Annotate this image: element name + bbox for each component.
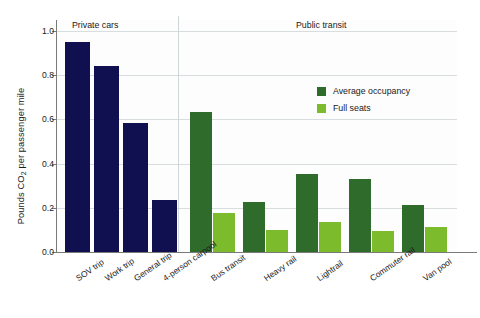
x-axis-label-bus-transit: Bus transit [209,252,247,283]
bar-commuter-rail-average-occupancy [349,179,371,252]
legend-item-average-occupancy: Average occupancy [317,84,410,98]
plot-area: 0.00.20.40.60.81.0 SOV tripWork tripGene… [57,20,457,252]
y-axis-tick-label: 0.4 [28,159,54,169]
bar-van-pool-full-seats [425,227,447,252]
y-axis-line [56,20,57,253]
chart-container: Pounds CO2 per passenger mile 0.00.20.40… [0,0,480,318]
bar-bus-transit-average-occupancy [190,112,212,252]
y-axis-tick-label: 0.8 [28,70,54,80]
y-axis-tick-label: 0.0 [28,247,54,257]
section-heading-public-transit: Public transit [296,20,346,30]
x-axis-label-sov-trip: SOV trip [74,257,106,283]
bar-heavy-rail-average-occupancy [243,202,265,252]
y-axis-tick-label: 0.6 [28,114,54,124]
bar-sov-trip [65,42,90,252]
gridline [57,31,457,32]
y-axis-tick-label: 1.0 [28,26,54,36]
x-axis-label-work-trip: Work trip [103,256,136,283]
bar-heavy-rail-full-seats [266,230,288,252]
bar-commuter-rail-full-seats [372,231,394,252]
group-divider [178,16,179,252]
bar-lightrail-full-seats [319,222,341,252]
y-axis-tick-label: 0.2 [28,203,54,213]
bar-van-pool-average-occupancy [402,205,424,253]
bar-work-trip [94,66,119,252]
section-heading-private-cars: Private cars [72,20,118,30]
x-axis-label-van-pool: Van pool [421,256,453,283]
bar-general-trip [123,123,148,252]
y-axis-title-suffix: per passenger mile [16,88,26,172]
legend-swatch-average-occupancy [317,87,326,96]
bar-4-person-carpool [152,200,177,252]
chart-legend: Average occupancy Full seats [317,84,410,118]
legend-label-average-occupancy: Average occupancy [333,86,410,96]
y-axis-title-subscript: 2 [20,171,27,175]
bar-lightrail-average-occupancy [296,174,318,252]
legend-label-full-seats: Full seats [333,103,371,113]
x-axis-label-heavy-rail: Heavy rail [262,254,298,284]
x-axis-label-lightrail: Lightrail [315,258,345,283]
legend-swatch-full-seats [317,104,326,113]
y-axis-title-prefix: Pounds CO [16,175,26,224]
legend-item-full-seats: Full seats [317,101,410,115]
